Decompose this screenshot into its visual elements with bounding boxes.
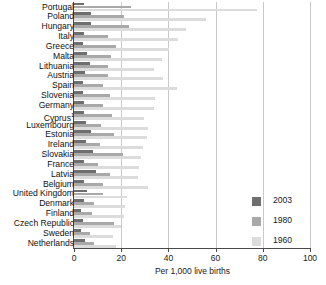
- legend-label-1960: 1960: [273, 235, 292, 245]
- bar-group: [74, 101, 326, 111]
- bar-group: [74, 52, 326, 62]
- bar-group: [74, 22, 326, 32]
- x-tick-label-20: 20: [106, 253, 136, 263]
- category-label-czech-republic: Czech Republic: [0, 218, 74, 228]
- bar-1960: [74, 245, 116, 248]
- category-label-slovakia: Slovakia: [0, 149, 74, 159]
- x-tick-label-100: 100: [295, 253, 325, 263]
- bar-group: [74, 12, 326, 22]
- category-label-estonia: Estonia: [0, 129, 74, 139]
- bar-group: [74, 170, 326, 180]
- category-label-finland: Finland: [0, 208, 74, 218]
- legend-swatch-1960: [252, 237, 261, 246]
- bar-group: [74, 130, 326, 140]
- category-label-denmark: Denmark: [0, 198, 74, 208]
- bar-group: [74, 81, 326, 91]
- category-label-greece: Greece: [0, 41, 74, 51]
- bar-group: [74, 32, 326, 42]
- bar-group: [74, 150, 326, 160]
- category-label-netherlands: Netherlands: [0, 238, 74, 248]
- bar-group: [74, 120, 326, 130]
- x-tick-0: [74, 248, 75, 252]
- category-label-austria: Austria: [0, 70, 74, 80]
- category-label-united-kingdom: United Kingdom: [0, 188, 74, 198]
- category-label-luxembourg: Luxembourg: [0, 120, 74, 130]
- x-axis-label: Per 1,000 live births: [74, 266, 311, 276]
- bar-group: [74, 160, 326, 170]
- legend-label-2003: 2003: [273, 195, 292, 205]
- bar-group: [74, 111, 326, 121]
- category-label-portugal: Portugal: [0, 2, 74, 12]
- x-tick-60: [216, 248, 217, 252]
- category-label-spain: Spain: [0, 80, 74, 90]
- category-label-france: France: [0, 159, 74, 169]
- bar-group: [74, 2, 326, 12]
- x-tick-label-0: 0: [59, 253, 89, 263]
- x-tick-100: [310, 248, 311, 252]
- category-label-poland: Poland: [0, 11, 74, 21]
- bar-group: [74, 140, 326, 150]
- category-label-slovenia: Slovenia: [0, 90, 74, 100]
- category-label-sweden: Sweden: [0, 228, 74, 238]
- bar-group: [74, 91, 326, 101]
- legend-label-1980: 1980: [273, 215, 292, 225]
- category-label-italy: Italy: [0, 31, 74, 41]
- x-tick-80: [263, 248, 264, 252]
- legend-swatch-1980: [252, 217, 261, 226]
- legend-swatch-2003: [252, 197, 261, 206]
- x-tick-label-80: 80: [248, 253, 278, 263]
- category-label-hungary: Hungary: [0, 21, 74, 31]
- x-tick-40: [168, 248, 169, 252]
- x-tick-20: [121, 248, 122, 252]
- x-tick-label-40: 40: [153, 253, 183, 263]
- category-label-ireland: Ireland: [0, 139, 74, 149]
- bar-group: [74, 61, 326, 71]
- category-label-germany: Germany: [0, 100, 74, 110]
- bar-group: [74, 180, 326, 190]
- category-label-lithuania: Lithuania: [0, 61, 74, 71]
- category-label-belgium: Belgium: [0, 179, 74, 189]
- bar-group: [74, 71, 326, 81]
- category-label-malta: Malta: [0, 51, 74, 61]
- bar-group: [74, 42, 326, 52]
- infant-mortality-bar-chart: PortugalPolandHungaryItalyGreeceMaltaLit…: [0, 0, 326, 285]
- category-label-latvia: Latvia: [0, 169, 74, 179]
- x-tick-label-60: 60: [201, 253, 231, 263]
